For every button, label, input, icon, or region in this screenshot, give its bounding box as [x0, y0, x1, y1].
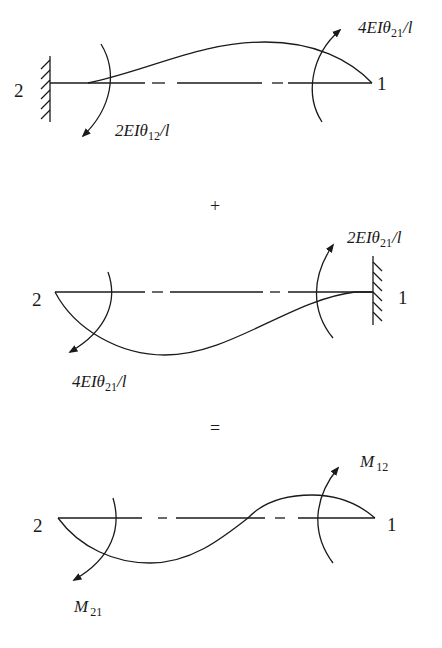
- moment-label-left: 2EIθ12/l: [115, 121, 170, 143]
- moment-label-right: 4EIθ21/l: [358, 18, 413, 40]
- plus-operator: +: [210, 196, 220, 216]
- node-label-left: 2: [14, 80, 24, 101]
- deflected-shape: [88, 42, 372, 83]
- node-label-left: 2: [32, 289, 42, 310]
- node-label-right: 1: [398, 287, 408, 308]
- fixed-support-right: [373, 256, 382, 325]
- moment-label-left: 4EIθ21/l: [72, 372, 127, 394]
- moment-arrow-left: [83, 44, 110, 136]
- moment-label-right: M12: [359, 452, 388, 474]
- panel-bottom: 2 1 M21 M12: [33, 452, 397, 619]
- panel-middle: 2 1 4EIθ21/l 2EIθ21/l: [32, 228, 408, 394]
- node-label-right: 1: [387, 514, 397, 535]
- node-label-right: 1: [377, 73, 387, 94]
- fixed-support-left: [41, 56, 50, 122]
- moment-arrow-right: [318, 468, 338, 563]
- moment-arrow-right: [312, 30, 340, 122]
- moment-arrow-left: [74, 498, 116, 580]
- moment-label-left: M21: [73, 597, 102, 619]
- panel-top: 2 1 2EIθ12/l 4EIθ21/l: [14, 18, 413, 143]
- equals-operator: =: [210, 418, 220, 438]
- node-label-left: 2: [33, 515, 43, 536]
- superposition-diagram: 2 1 2EIθ12/l 4EIθ21/l +: [0, 0, 442, 648]
- moment-label-right: 2EIθ21/l: [347, 228, 402, 250]
